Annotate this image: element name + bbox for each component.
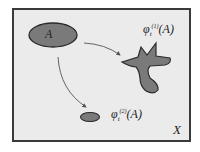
phi2-image-ellipse [81,113,100,122]
phi2-label: φt(2)(A) [111,107,142,123]
arrow-to-phi1 [84,43,120,55]
arrow-to-phi2 [58,57,86,107]
phi1-label: φt(1)(A) [143,22,174,38]
phi1-image-blob [122,43,170,93]
space-x-label: X [173,122,181,138]
set-a-label: A [45,27,52,42]
set-a-ellipse [29,23,77,47]
